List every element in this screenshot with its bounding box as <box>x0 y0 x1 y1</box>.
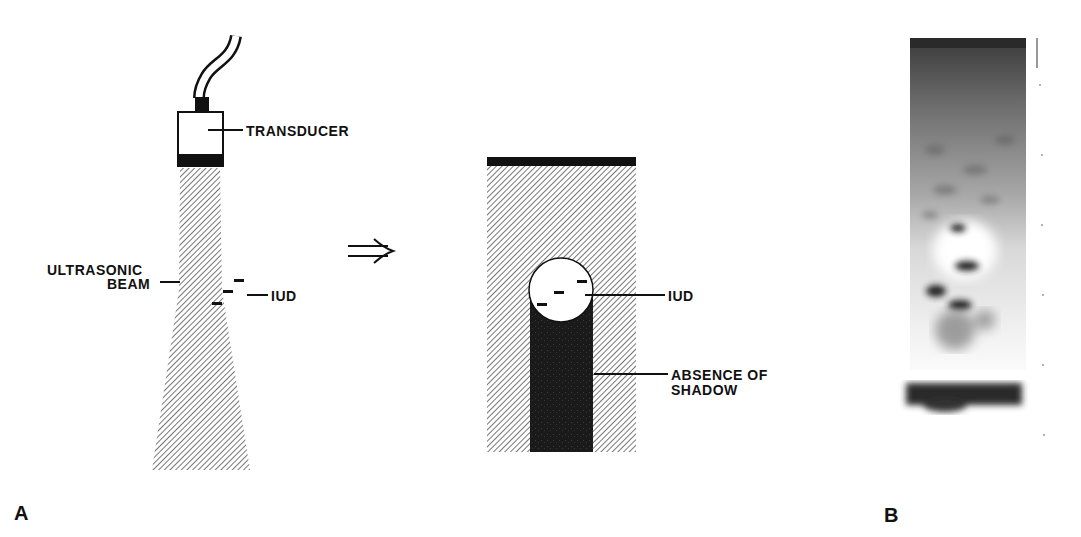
transducer-cable <box>195 36 236 111</box>
figure-canvas <box>0 0 1081 537</box>
ultrasound-image <box>906 38 1045 436</box>
panel-letter-b: B <box>884 504 898 527</box>
panel-letter-a: A <box>14 502 28 525</box>
ultrasonic-beam <box>152 168 250 470</box>
beam-label: BEAM <box>107 276 150 292</box>
scan-schematic <box>487 157 636 452</box>
iud-echo-circle <box>529 258 593 322</box>
transducer-label: TRANSDUCER <box>246 123 349 139</box>
transducer <box>177 112 224 167</box>
iud-label-left: IUD <box>271 288 297 304</box>
shadow-label: SHADOW <box>671 382 738 398</box>
double-arrow-icon <box>348 239 393 263</box>
iud-label-right: IUD <box>668 288 694 304</box>
absence-label: ABSENCE OF <box>671 367 768 383</box>
